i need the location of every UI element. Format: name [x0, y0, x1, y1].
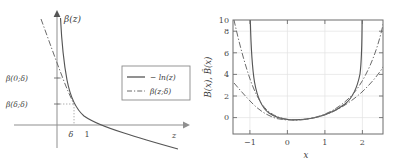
left-xaxis-label: z	[171, 131, 177, 140]
left-y-axis	[54, 10, 61, 148]
right-y-ticklabels: 0 2 4 6 8 10	[219, 16, 229, 122]
left-yaxis-label: β(z)	[63, 14, 81, 24]
right-ytick-0: 0	[224, 113, 229, 122]
right-ytick-10: 10	[219, 16, 229, 25]
right-x-tickmarks	[250, 20, 363, 134]
right-gridlines	[233, 20, 383, 134]
right-plot-svg: 0 2 4 6 8 10 −1 0 1 2 x B(x), B̂(x)	[197, 0, 395, 168]
right-xtick-1: 1	[322, 138, 327, 147]
left-legend: − ln(z) β(z;δ)	[122, 66, 190, 100]
left-ytick-beta-0-delta: β(0;δ)	[5, 74, 28, 83]
right-quantitative-plot: 0 2 4 6 8 10 −1 0 1 2 x B(x), B̂(x)	[197, 0, 395, 168]
right-ytick-6: 6	[224, 49, 229, 58]
left-ytick-beta-delta-delta: β(δ;δ)	[5, 100, 28, 109]
left-schematic-plot: β(z) z β(0;δ) β(δ;δ) δ 1 − ln(z) β(z;δ)	[0, 0, 198, 168]
right-ytick-2: 2	[224, 92, 229, 101]
right-xtick-0: 0	[285, 138, 290, 147]
right-xtick-2: 2	[360, 138, 365, 147]
right-ytick-4: 4	[224, 70, 229, 79]
left-xtick-one: 1	[84, 130, 89, 139]
right-x-ticklabels: −1 0 1 2	[244, 138, 365, 147]
right-plot-frame	[233, 20, 383, 134]
left-plot-svg: β(z) z β(0;δ) β(δ;δ) δ 1 − ln(z) β(z;δ)	[0, 0, 198, 168]
legend-label-beta: β(z;δ)	[149, 87, 171, 96]
right-xaxis-label: x	[304, 150, 309, 160]
x-axis-arrowhead	[183, 122, 190, 129]
right-xtick-neg1: −1	[244, 138, 256, 147]
right-ytick-8: 8	[224, 27, 229, 36]
left-xtick-delta: δ	[69, 130, 74, 139]
y-axis-arrowhead	[54, 10, 61, 17]
legend-label-neg-log: − ln(z)	[150, 73, 176, 82]
two-panel-figure: β(z) z β(0;δ) β(δ;δ) δ 1 − ln(z) β(z;δ)	[0, 0, 395, 168]
right-yaxis-label: B(x), B̂(x)	[202, 57, 213, 99]
